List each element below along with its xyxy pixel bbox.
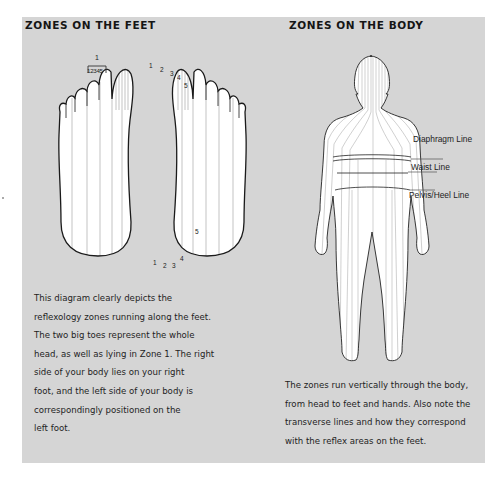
zone-bracket-label: 1 bbox=[95, 54, 99, 61]
left-foot-diagram bbox=[59, 66, 133, 256]
feet-description-line: foot, and the left side of your body is bbox=[34, 382, 254, 401]
body-description-line: with the reflex areas on the feet. bbox=[285, 432, 485, 451]
feet-description-line: This diagram clearly depicts the bbox=[34, 289, 254, 308]
body-description-line: transverse lines and how they correspond bbox=[285, 413, 485, 432]
feet-description: This diagram clearly depicts the reflexo… bbox=[34, 289, 254, 438]
toe-zone-2: 2 bbox=[160, 66, 164, 73]
toe-zone-1: 1 bbox=[149, 62, 153, 69]
heel-zone-2: 2 bbox=[163, 262, 167, 269]
heel-zone-3: 3 bbox=[172, 262, 176, 269]
feet-description-line: reflexology zones running along the feet… bbox=[34, 308, 254, 327]
diaphragm-line-label: Diaphragm Line bbox=[413, 134, 472, 144]
feet-description-line: correspondingly positioned on the bbox=[34, 401, 254, 420]
feet-description-line: side of your body lies on your right bbox=[34, 363, 254, 382]
pelvis-heel-line-label: Pelvis/Heel Line bbox=[409, 190, 469, 200]
body-diagram bbox=[315, 56, 443, 362]
right-foot-diagram bbox=[172, 66, 246, 256]
body-description-line: The zones run vertically through the bod… bbox=[285, 376, 485, 395]
feet-description-line: left foot. bbox=[34, 419, 254, 438]
toe-zone-5: 5 bbox=[184, 82, 188, 89]
heel-zone-5: 5 bbox=[195, 228, 199, 235]
feet-description-line: head, as well as lying in Zone 1. The ri… bbox=[34, 345, 254, 364]
toe-zone-4: 4 bbox=[177, 74, 181, 81]
waist-line-label: Waist Line bbox=[411, 162, 450, 172]
toe-zone-3: 3 bbox=[170, 70, 174, 77]
heel-zone-4: 4 bbox=[180, 255, 184, 262]
body-description-line: from head to feet and hands. Also note t… bbox=[285, 395, 485, 414]
body-description: The zones run vertically through the bod… bbox=[285, 376, 485, 450]
zone-bracket-sub-label: 12345 bbox=[87, 67, 103, 74]
heel-zone-1: 1 bbox=[153, 259, 157, 266]
feet-description-line: The two big toes represent the whole bbox=[34, 326, 254, 345]
